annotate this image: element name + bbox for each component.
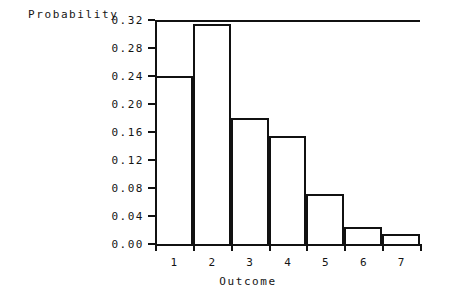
bar bbox=[382, 234, 420, 244]
x-axis-tick-label: 4 bbox=[284, 256, 291, 269]
probability-histogram-figure: Probability 0.000.040.080.120.160.200.24… bbox=[0, 0, 456, 301]
bar bbox=[344, 227, 382, 245]
y-axis-tick-mark bbox=[148, 103, 155, 105]
x-axis-tick-label: 6 bbox=[360, 256, 367, 269]
y-axis-tick-mark bbox=[148, 131, 155, 133]
x-axis-tick-mark bbox=[306, 244, 308, 251]
bar bbox=[193, 24, 231, 245]
x-axis-tick-mark bbox=[344, 244, 346, 251]
x-axis-tick-label: 5 bbox=[322, 256, 329, 269]
y-axis-tick-label: 0.08 bbox=[112, 182, 145, 195]
y-axis-tick-label: 0.12 bbox=[112, 154, 145, 167]
y-axis-tick-mark bbox=[148, 19, 155, 21]
y-axis-tick-label: 0.20 bbox=[112, 98, 145, 111]
y-axis-tick-mark bbox=[148, 215, 155, 217]
x-axis-tick-label: 7 bbox=[398, 256, 405, 269]
y-axis-tick-mark bbox=[148, 187, 155, 189]
y-axis-tick-label: 0.04 bbox=[112, 210, 145, 223]
plot-area: 0.000.040.080.120.160.200.240.280.32 123… bbox=[155, 20, 420, 244]
y-axis-tick-label: 0.28 bbox=[112, 42, 145, 55]
y-axis-tick-label: 0.16 bbox=[112, 126, 145, 139]
x-axis-tick-mark bbox=[382, 244, 384, 251]
x-axis-title: Outcome bbox=[0, 275, 456, 288]
y-axis-tick-mark bbox=[148, 243, 155, 245]
bar bbox=[231, 118, 269, 244]
axis-frame-top bbox=[155, 20, 420, 22]
y-axis-tick-mark bbox=[148, 159, 155, 161]
x-axis-tick-label: 3 bbox=[246, 256, 253, 269]
x-axis-tick-mark bbox=[193, 244, 195, 251]
x-axis-tick-mark bbox=[269, 244, 271, 251]
bar bbox=[155, 76, 193, 244]
x-axis-tick-label: 1 bbox=[171, 256, 178, 269]
y-axis-tick-mark bbox=[148, 75, 155, 77]
y-axis-tick-label: 0.24 bbox=[112, 70, 145, 83]
x-axis-title-text: Outcome bbox=[179, 275, 277, 288]
x-axis-tick-mark bbox=[155, 244, 157, 251]
bar bbox=[306, 194, 344, 244]
y-axis-title: Probability bbox=[28, 8, 118, 21]
y-axis-tick-label: 0.00 bbox=[112, 238, 145, 251]
x-axis-tick-mark bbox=[420, 244, 422, 251]
x-axis-tick-mark bbox=[231, 244, 233, 251]
bar bbox=[269, 136, 307, 245]
y-axis-tick-mark bbox=[148, 47, 155, 49]
x-axis-tick-label: 2 bbox=[208, 256, 215, 269]
y-axis-tick-label: 0.32 bbox=[112, 14, 145, 27]
